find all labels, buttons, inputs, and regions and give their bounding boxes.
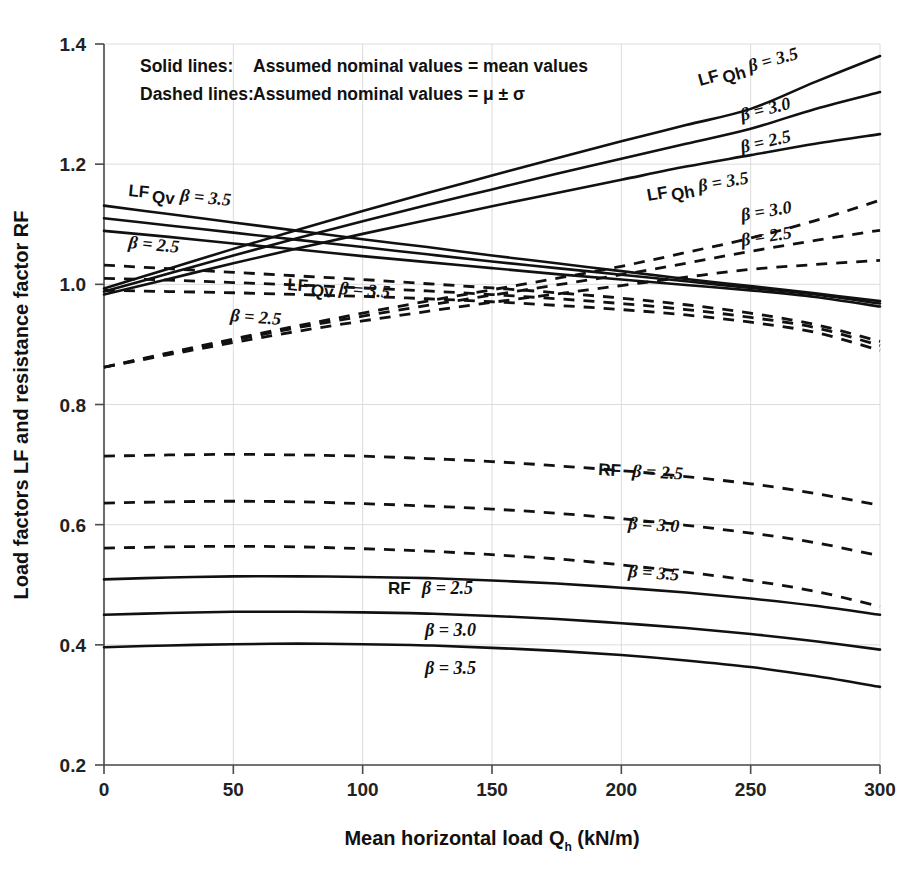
lf-qv-solid-35-prefix: LF xyxy=(128,181,151,202)
rf-dashed-30-beta: β = 3.0 xyxy=(627,513,680,536)
y-tick-label: 0.2 xyxy=(60,755,86,776)
y-axis-title-rf: RF xyxy=(10,211,32,238)
x-axis-title-unit: (kN/m) xyxy=(572,827,640,849)
y-tick-label: 1.2 xyxy=(60,154,86,175)
x-tick-label: 50 xyxy=(223,779,244,800)
chart-figure: 050100150200250300 0.20.40.60.81.01.21.4… xyxy=(0,0,918,875)
y-tick-label: 0.6 xyxy=(60,515,86,536)
x-tick-label: 100 xyxy=(347,779,379,800)
annotation-rf-dashed-30: β = 3.0 xyxy=(627,513,680,536)
y-tick-label: 1.0 xyxy=(60,274,86,295)
lf-qv-dashed-35-subscript: Qv xyxy=(310,281,335,302)
x-axis-title-main: Mean horizontal load Q xyxy=(344,827,564,849)
legend-dashed-key: Dashed lines: xyxy=(140,84,254,104)
lf-qh-dashed-35-prefix: LF xyxy=(645,183,669,205)
y-tick-label: 0.4 xyxy=(60,635,87,656)
svg-text:Load factors LF and resistance: Load factors LF and resistance factor RF xyxy=(10,211,32,600)
y-tick-label: 0.8 xyxy=(60,395,86,416)
y-axis-title-lf: LF xyxy=(10,449,32,473)
x-axis-title-sub: h xyxy=(564,840,571,854)
lf-qv-dashed-35-prefix: LF xyxy=(287,275,309,296)
x-tick-label: 0 xyxy=(99,779,110,800)
x-tick-label: 300 xyxy=(864,779,896,800)
lf-qv-dashed-35-beta: β = 3.5 xyxy=(338,278,391,302)
y-axis-title-c: and resistance factor xyxy=(10,237,32,449)
lf-qh-dashed-35-subscript: Qh xyxy=(670,182,697,205)
chart-svg: 050100150200250300 0.20.40.60.81.01.21.4… xyxy=(0,0,918,875)
lf-qv-dashed-25-beta: β = 2.5 xyxy=(229,305,282,329)
x-tick-label: 250 xyxy=(735,779,767,800)
y-axis-title: Load factors LF and resistance factor RF xyxy=(10,211,32,600)
rf-solid-35-beta: β = 3.5 xyxy=(424,658,476,678)
rf-dashed-25-beta: β = 2.5 xyxy=(631,461,684,484)
rf-dashed-35-beta: β = 3.5 xyxy=(627,561,680,585)
rf-dashed-25-prefix: RF xyxy=(598,460,622,480)
y-axis-title-a: Load factors xyxy=(10,474,32,600)
annotation-rf-dashed-35: β = 3.5 xyxy=(627,561,680,585)
annotation-rf-solid-30: β = 3.0 xyxy=(424,620,476,640)
rf-solid-25-prefix: RF xyxy=(388,579,411,598)
lf-qv-solid-35-subscript: Qv xyxy=(151,187,176,208)
rf-solid-25-beta: β = 2.5 xyxy=(421,578,473,598)
rf-solid-30-beta: β = 3.0 xyxy=(424,620,476,640)
annotation-lf-qv-dashed-25: β = 2.5 xyxy=(229,305,282,329)
legend-solid-key: Solid lines: xyxy=(140,56,233,76)
legend-dashed-value: Assumed nominal values = μ ± σ xyxy=(253,84,525,104)
annotation-rf-solid-35: β = 3.5 xyxy=(424,658,476,678)
y-tick-label: 1.4 xyxy=(60,34,87,55)
x-tick-label: 150 xyxy=(476,779,508,800)
annotation-rf-solid-25: RFβ = 2.5 xyxy=(388,578,473,598)
x-tick-label: 200 xyxy=(605,779,637,800)
legend-solid-value: Assumed nominal values = mean values xyxy=(253,56,588,76)
